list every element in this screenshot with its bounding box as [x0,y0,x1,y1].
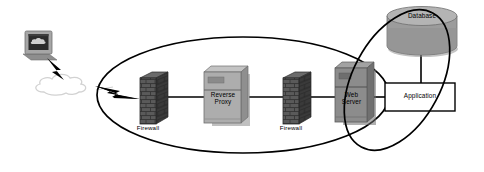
label-firewall-outer: Firewall [126,124,170,131]
label-database: Database [387,12,457,19]
computer-monitor-icon [23,31,57,60]
server-tower-icon-web-server [335,62,376,125]
brick-wall-icon-inner [283,72,311,124]
diagram-vector-layer [0,0,484,172]
label-application: Application [385,92,455,99]
server-tower-icon-reverse-proxy [204,66,250,126]
link-internet-to-firewall [95,86,140,99]
label-firewall-inner: Firewall [269,124,313,131]
diagram-canvas: Firewall Reverse Proxy Firewall Web Serv… [0,0,484,172]
brick-wall-icon-outer [140,72,168,124]
